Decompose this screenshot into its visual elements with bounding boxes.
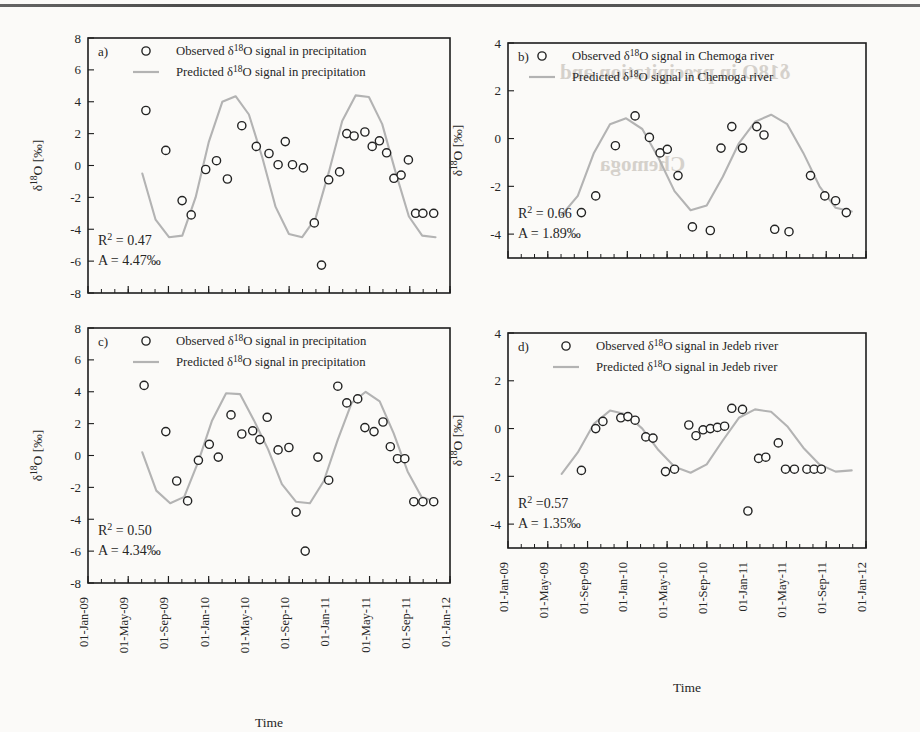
y-tick-label-3: -2 [490, 469, 501, 484]
observed-point [728, 123, 736, 131]
observed-point [214, 453, 222, 461]
observed-point [781, 465, 789, 473]
y-tick-label-8: -8 [70, 576, 81, 591]
observed-point [410, 498, 418, 506]
y-tick-label-1: 6 [75, 352, 82, 367]
observed-point [184, 497, 192, 505]
legend-observed-label: Observed δ18O signal in Chemoga river [572, 48, 775, 64]
observed-point [832, 197, 840, 205]
observed-point [383, 149, 391, 157]
observed-point [223, 175, 231, 183]
observed-point [249, 427, 257, 435]
observed-point [354, 395, 362, 403]
observed-point [265, 149, 273, 157]
y-tick-label-2: 4 [75, 384, 82, 399]
predicted-line-panel-b [562, 115, 852, 215]
legend-observed-marker [538, 52, 546, 60]
observed-point [162, 428, 170, 436]
y-tick-label-3: 2 [75, 416, 82, 431]
observed-point [577, 466, 585, 474]
y-axis-title: δ18O [‰] [449, 415, 465, 467]
observed-point [806, 172, 814, 180]
observed-point [205, 440, 213, 448]
observed-point [821, 192, 829, 200]
observed-point [375, 137, 383, 145]
legend-observed-label: Observed δ18O signal in precipitation [176, 43, 367, 59]
observed-point [577, 209, 585, 217]
observed-point [299, 164, 307, 172]
observed-point [401, 455, 409, 463]
observed-point [325, 476, 333, 484]
y-tick-label-4: -4 [490, 517, 501, 532]
observed-point [771, 225, 779, 233]
observed-point [178, 197, 186, 205]
observed-point [592, 192, 600, 200]
amplitude-annotation-panel-d: A = 1.35‰ [518, 516, 581, 531]
observed-point [252, 142, 260, 150]
panel-c: 86420-2-4-6-8δ18O [‰]01-Jan-0901-May-090… [29, 321, 453, 731]
y-tick-label-5: -2 [70, 480, 81, 495]
x-tick-label-8: 01-Sep-11 [399, 597, 413, 649]
observed-point [670, 465, 678, 473]
observed-point [738, 144, 746, 152]
observed-point [274, 161, 282, 169]
observed-point [631, 112, 639, 120]
observed-point [762, 453, 770, 461]
x-tick-label-3: 01-Jan-10 [198, 597, 212, 647]
figure-container: 86420-2-4-6-8δ18O [‰]a)Observed δ18O sig… [0, 0, 920, 732]
observed-point [263, 413, 271, 421]
observed-point [419, 209, 427, 217]
observed-point [173, 477, 181, 485]
observed-point [361, 128, 369, 136]
legend-observed-label: Observed δ18O signal in precipitation [176, 333, 367, 349]
r2-annotation-panel-a: R2 = 0.47 [98, 231, 152, 248]
x-axis-title: Time [255, 715, 283, 730]
x-tick-label-7: 01-May-11 [359, 597, 373, 653]
observed-point [140, 381, 148, 389]
observed-point [419, 498, 427, 506]
y-tick-label-8: -8 [70, 286, 81, 301]
observed-point [343, 399, 351, 407]
legend-observed-marker [142, 337, 150, 345]
y-tick-label-0: 8 [75, 31, 82, 46]
observed-point [379, 418, 387, 426]
observed-point [325, 176, 333, 184]
r2-annotation-panel-c: R2 = 0.50 [98, 521, 152, 538]
observed-point [386, 443, 394, 451]
observed-point [314, 453, 322, 461]
amplitude-annotation-panel-a: A = 4.47‰ [98, 253, 161, 268]
observed-point [194, 456, 202, 464]
observed-point [599, 417, 607, 425]
y-tick-label-6: -4 [70, 512, 81, 527]
observed-point [721, 422, 729, 430]
r2-annotation-panel-b: R2 = 0.66 [518, 204, 572, 221]
observed-point [368, 142, 376, 150]
observed-point [187, 211, 195, 219]
x-tick-label-2: 01-Sep-09 [577, 562, 591, 614]
observed-point [645, 133, 653, 141]
observed-point [238, 430, 246, 438]
legend-predicted-label: Predicted δ18O signal in Chemoga river [572, 69, 774, 85]
y-axis-title: δ18O [‰] [449, 125, 465, 177]
observed-point [744, 507, 752, 515]
y-axis-title: δ18O [‰] [29, 140, 45, 192]
y-tick-label-1: 2 [495, 83, 502, 98]
observed-point [334, 382, 342, 390]
observed-point [717, 144, 725, 152]
legend-observed-label: Observed δ18O signal in Jedeb river [596, 338, 779, 354]
observed-point [692, 432, 700, 440]
x-tick-label-9: 01-Jan-12 [855, 562, 869, 612]
observed-point [361, 424, 369, 432]
y-tick-label-7: -6 [70, 254, 81, 269]
figure-svg: 86420-2-4-6-8δ18O [‰]a)Observed δ18O sig… [0, 0, 920, 732]
observed-point [310, 219, 318, 227]
y-tick-label-2: 0 [495, 421, 502, 436]
panel-tag-panel-d: d) [518, 339, 529, 354]
observed-point [611, 142, 619, 150]
observed-point [336, 168, 344, 176]
y-tick-label-3: 2 [75, 126, 82, 141]
x-tick-label-9: 01-Jan-12 [439, 597, 453, 647]
observed-point [790, 465, 798, 473]
legend-predicted-label: Predicted δ18O signal in precipitation [176, 354, 366, 370]
observed-point [674, 172, 682, 180]
